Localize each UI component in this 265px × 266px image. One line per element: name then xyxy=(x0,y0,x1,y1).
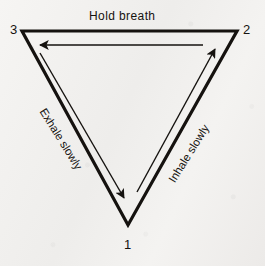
edge-label-hold-breath: Hold breath xyxy=(89,9,155,23)
vertex-label-1: 1 xyxy=(124,238,131,251)
triangle-figure xyxy=(0,0,265,266)
vertex-label-3: 3 xyxy=(10,23,17,36)
vertex-label-2: 2 xyxy=(243,23,250,36)
breathing-triangle-diagram: Hold breath 3 2 1 Exhale slowly Inhale s… xyxy=(0,0,265,266)
